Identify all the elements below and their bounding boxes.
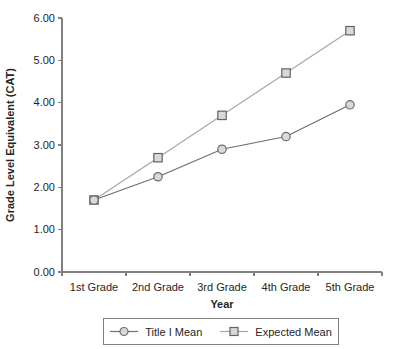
data-point-title-i-mean (90, 196, 98, 204)
data-point-expected-mean (282, 69, 290, 77)
data-point-expected-mean (154, 154, 162, 162)
legend-item-title-i-mean: Title I Mean (110, 326, 202, 338)
x-category-label: 2nd Grade (132, 281, 184, 293)
data-point-expected-mean (218, 111, 226, 119)
data-point-title-i-mean (218, 145, 226, 153)
data-point-title-i-mean (154, 173, 162, 181)
legend-item-expected-mean: Expected Mean (220, 326, 331, 338)
y-tick-label: 2.00 (34, 181, 55, 193)
y-tick-label: 4.00 (34, 96, 55, 108)
x-category-label: 4th Grade (262, 281, 311, 293)
chart-container: 0.001.002.003.004.005.006.001st Grade2nd… (0, 0, 396, 349)
square-marker-icon (220, 326, 248, 337)
legend: Title I Mean Expected Mean (103, 318, 339, 345)
y-tick-label: 3.00 (34, 139, 55, 151)
x-category-label: 1st Grade (70, 281, 118, 293)
data-point-expected-mean (346, 27, 354, 35)
legend-label-expected-mean: Expected Mean (255, 326, 331, 338)
y-axis-title: Grade Level Equivalent (CAT) (4, 68, 16, 222)
x-category-label: 3rd Grade (197, 281, 247, 293)
y-tick-label: 0.00 (34, 266, 55, 278)
circle-marker-icon (110, 326, 138, 337)
data-point-title-i-mean (346, 101, 354, 109)
legend-label-title-i-mean: Title I Mean (145, 326, 202, 338)
x-category-label: 5th Grade (326, 281, 375, 293)
y-tick-label: 5.00 (34, 54, 55, 66)
data-point-title-i-mean (282, 132, 290, 140)
y-tick-label: 1.00 (34, 223, 55, 235)
y-tick-label: 6.00 (34, 12, 55, 24)
x-axis-title: Year (210, 298, 234, 310)
line-chart: 0.001.002.003.004.005.006.001st Grade2nd… (0, 0, 396, 349)
